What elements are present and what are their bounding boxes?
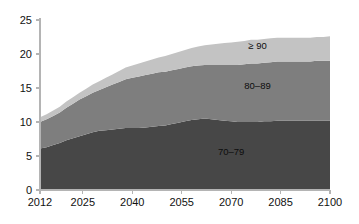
area-series-group (40, 36, 330, 190)
x-tick-label: 2100 (318, 196, 342, 208)
series-inline-label: 70–79 (218, 146, 244, 157)
y-tick-label: 5 (26, 150, 32, 162)
x-tick-label: 2070 (219, 196, 243, 208)
y-axis-tick-labels: 0510152025 (20, 14, 32, 196)
y-tick-label: 25 (20, 14, 32, 26)
y-tick-label: 10 (20, 116, 32, 128)
stacked-area-chart: 0510152025 2012202520402055207020852100 … (0, 0, 359, 224)
chart-canvas: 0510152025 2012202520402055207020852100 … (0, 0, 359, 224)
y-tick-label: 15 (20, 82, 32, 94)
series-inline-label: 80–89 (244, 80, 270, 91)
x-tick-label: 2055 (169, 196, 193, 208)
x-tick-label: 2025 (71, 196, 95, 208)
series-inline-label: ≥ 90 (248, 40, 266, 51)
y-tick-label: 20 (20, 48, 32, 60)
y-tick-label: 0 (26, 184, 32, 196)
x-tick-label: 2012 (28, 196, 52, 208)
x-tick-label: 2085 (268, 196, 292, 208)
x-axis-tick-labels: 2012202520402055207020852100 (28, 196, 342, 208)
x-tick-label: 2040 (120, 196, 144, 208)
